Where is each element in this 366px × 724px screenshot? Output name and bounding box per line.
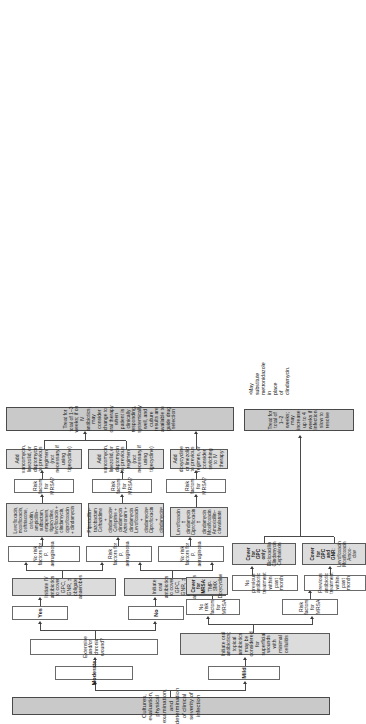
connector-ivadd-bottom-out xyxy=(126,441,127,449)
mild-drug-doxycycline: Doxycycline xyxy=(218,574,223,599)
oral-mrsa-add-label: Add doxycycline or linezolid to previous… xyxy=(173,446,224,472)
arrow-mild-next xyxy=(243,657,247,660)
mild-cover-gpc-only-heading: Cover for GPC only: xyxy=(246,546,267,562)
arrow-to-no xyxy=(153,621,157,624)
mild-drug-amox-clav: Amox-clav xyxy=(347,546,357,562)
connector-mild-split xyxy=(208,624,312,625)
connector-iv-merge-out xyxy=(85,433,86,441)
iv-risk-line-6: Ciprofloxacin + clindamycinᵃ xyxy=(149,506,164,534)
connector-oral-to-norisk xyxy=(140,564,141,571)
node-answer-no: No xyxy=(128,606,184,620)
mild-risk-mrsa-label: Risk factors for MRSA xyxy=(299,599,322,614)
connector-mrsaq3-out xyxy=(196,472,197,479)
node-mild-cover-gpc-gnr: Cover for GPC and GNR: Levofloxacin Moxi… xyxy=(302,543,366,565)
iv-risk-line-1: Piperacillin–tazobactam xyxy=(87,506,97,534)
node-oral-no-risk-regimen: Levofloxacin ± clindamycin Ciprofloxacin… xyxy=(170,507,228,537)
node-iv-mrsa-add-bottom: Add vancomycin, linezolid, or daptomycin… xyxy=(88,449,164,469)
connector-oraladd-out xyxy=(196,433,197,449)
node-mrsa-question-oral: Risk factors for MRSA? xyxy=(166,479,226,493)
connector-to-yes xyxy=(40,623,41,631)
connector-to-mild-risk xyxy=(312,618,313,625)
connector-oral-split xyxy=(140,570,212,571)
node-mild-cover-gpc-only: Cover for GPC only: Dicloxacillin Clinda… xyxy=(232,543,296,565)
connector-oral-to-risk xyxy=(212,564,213,571)
iv-mrsa-add-bottom-label: Add vancomycin, linezolid, or daptomycin… xyxy=(97,445,154,473)
node-mild-cover-mrsa: Cover for MRSA: TMP-SMX Doxycycline xyxy=(186,577,228,595)
extensive-question-label: Extensive and/or chronic wound? xyxy=(83,636,106,658)
connector-iv-split xyxy=(26,570,102,571)
node-start-label: Cultures, evaluation, physical examinati… xyxy=(141,688,201,724)
iv-risk-line-3: Cefepime + clindamycin xyxy=(113,506,123,534)
iv-no-risk-pa-label: No risk factors for P. aeruginosa xyxy=(33,541,56,566)
node-iv-risk-pa: Risk factors for P. aeruginosa xyxy=(86,546,152,562)
connector-ivnoriskregimen-out xyxy=(42,496,43,503)
connector-mild-risk-out xyxy=(310,592,311,599)
node-iv-mrsa-add-top: Add vancomycin, linezolid, or daptomycin… xyxy=(6,449,82,469)
initiate-iv-label: Initiate IV antibiotics to cover GPC, GN… xyxy=(44,575,84,599)
node-answer-yes: Yes xyxy=(12,606,68,620)
footnote: ᵃMay substitute metronidazole in place o… xyxy=(248,381,290,395)
arrow-mild-noprev-next xyxy=(250,566,254,569)
connector-ivrisk-out xyxy=(118,539,119,546)
node-severity-mild: Mild xyxy=(208,666,280,680)
connector-oralnoriskregimen-out xyxy=(196,496,197,507)
mild-initiate-label: Initiate oral antibiotics; topical antib… xyxy=(221,632,289,657)
node-mrsa-question-iv-risk: Risk factors for MRSA? xyxy=(92,479,152,493)
arrow-to-mild-duration xyxy=(298,435,302,438)
arrow-oral-norisk xyxy=(138,562,142,565)
arrow-iv-norisk xyxy=(24,562,28,565)
connector-ivnorisk-out xyxy=(42,539,43,546)
connector-mild-out xyxy=(245,659,246,666)
mild-no-prev-abx-label: No previous antibiotic treatment within … xyxy=(245,572,285,594)
node-iv-risk-regimen: Piperacillin–tazobactam Ceftazidime + cl… xyxy=(88,503,164,537)
answer-no-label: No xyxy=(153,609,159,616)
connector-oralnorisk-out xyxy=(190,539,191,546)
connector-ivadd-top-out xyxy=(44,441,45,449)
moderate-duration-label: Treat for total of 1–3 weeks; if on IV a… xyxy=(63,405,177,432)
connector-mild-noprev-out xyxy=(252,568,253,575)
connector-to-mild xyxy=(245,683,246,691)
node-mild-initiate: Initiate oral antibiotics; topical antib… xyxy=(180,633,330,655)
mild-prev-abx-label: Previous antibiotic treatment within pas… xyxy=(318,572,352,594)
iv-norisk-line-3: ampicillin–sulbactam, xyxy=(34,506,44,534)
connector-mild-merge xyxy=(264,536,334,537)
mild-drug-cephalexin: Cephalexin xyxy=(277,543,282,566)
node-oral-no-risk-pa: No risk factors for P. aeruginosa xyxy=(158,546,224,562)
arrow-yes-next xyxy=(38,597,42,600)
iv-norisk-line-1: Levofloxacin, moxifloxacin, xyxy=(13,506,23,534)
mild-cover-gpc-gnr-heading: Cover for GPC and GNR: xyxy=(310,546,336,562)
mild-duration-label: Treat for total of 1–2 weeks; may increa… xyxy=(268,410,331,429)
connector-start-out xyxy=(170,690,171,697)
node-mild-risk-mrsa: Risk factors for MRSA xyxy=(282,599,338,615)
connector-extensive-out xyxy=(95,631,96,639)
connector-iv-to-risk xyxy=(102,564,103,571)
arrow-to-yes xyxy=(38,621,42,624)
node-initiate-iv: Initiate IV antibiotics to cover GPC, GN… xyxy=(12,578,116,596)
arrow-oralnorisk-next xyxy=(188,537,192,540)
oral-norisk-line-4: Amoxicillin–clavulanate xyxy=(212,510,222,534)
mild-drug-tmp-smx: TMP-SMX xyxy=(208,580,218,592)
node-iv-no-risk-regimen: Levofloxacin, moxifloxacin, ceftriaxone,… xyxy=(6,503,82,537)
iv-norisk-line-6: ciprofloxacin + clindamycin xyxy=(65,506,75,534)
mrsa-question-iv-risk-label: Risk factors for MRSA? xyxy=(111,477,134,495)
arrow-ivrisk-next xyxy=(116,537,120,540)
mild-no-risk-mrsa-label: No risk factors for MRSA xyxy=(199,599,228,614)
connector-iv-to-norisk xyxy=(26,564,27,571)
node-mild-no-risk-mrsa: No risk factors for MRSA xyxy=(186,599,240,615)
connector-oral-out xyxy=(172,571,173,578)
oral-no-risk-pa-label: No risk factors for P. aeruginosa xyxy=(180,541,203,566)
connector-ivriskregimen-out xyxy=(122,496,123,503)
severity-mild-label: Mild xyxy=(241,668,247,679)
node-moderate-duration: Treat for total of 1–3 weeks; if on IV a… xyxy=(6,407,234,431)
iv-risk-line-5: Levofloxacin + clindamycinᵃ xyxy=(134,506,149,534)
iv-risk-line-4: Aztreonam + clindamycin xyxy=(123,506,133,534)
arrow-to-mod-duration-2 xyxy=(194,431,198,434)
connector-mild-merge-out xyxy=(300,437,301,537)
arrow-to-mild xyxy=(243,681,247,684)
connector-to-no xyxy=(155,623,156,631)
connector-mild-gpcgnr-out xyxy=(334,537,335,543)
node-oral-mrsa-add: Add doxycycline or linezolid to previous… xyxy=(170,449,228,469)
node-severity-moderate: Moderate xyxy=(55,666,133,680)
connector-iv-out xyxy=(62,571,63,578)
